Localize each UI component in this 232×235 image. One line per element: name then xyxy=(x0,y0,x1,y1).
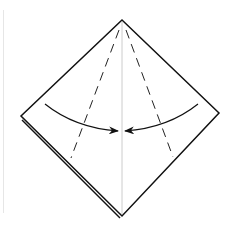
fold-arrow-left-icon xyxy=(45,104,118,131)
valley-fold-right xyxy=(126,30,173,157)
valley-fold-left xyxy=(71,30,119,158)
back-layer-edge xyxy=(22,120,120,218)
origami-diagram xyxy=(0,0,232,235)
diamond-outline xyxy=(21,20,219,216)
fold-arrow-right-icon xyxy=(125,104,198,131)
